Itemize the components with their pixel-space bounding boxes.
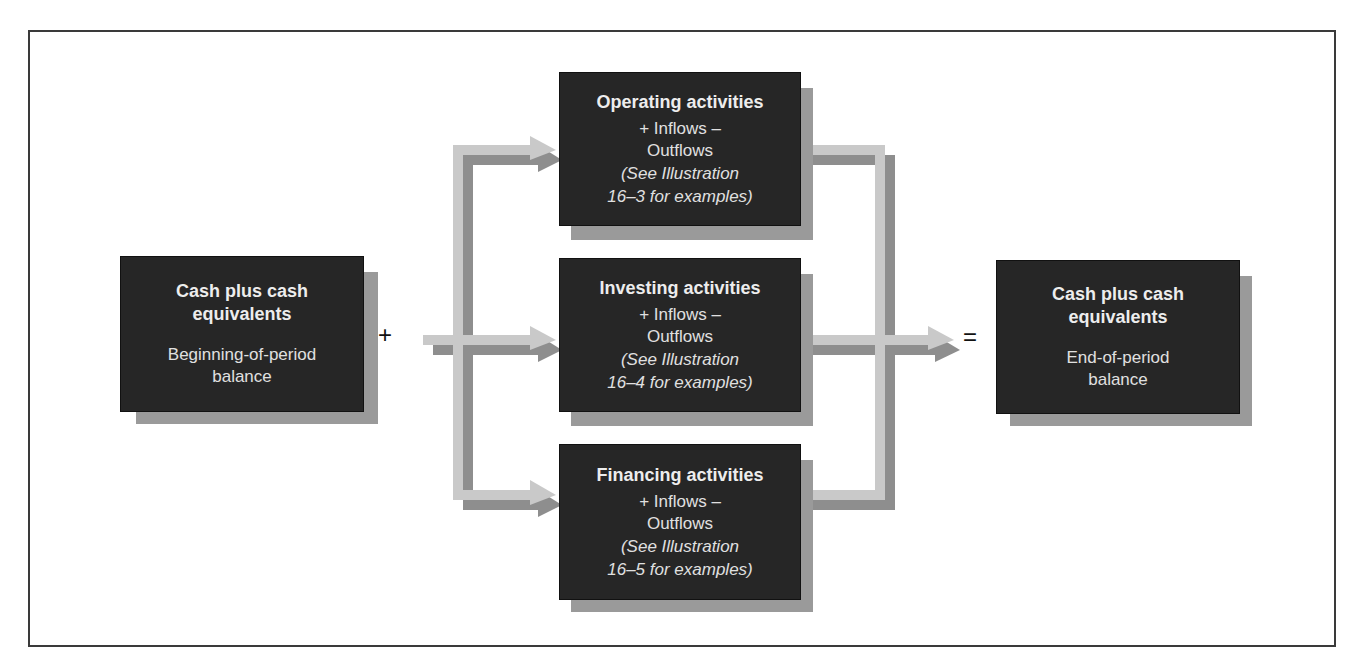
operating-flow-line1: + Inflows – (639, 118, 721, 140)
end-box: Cash plus cash equivalents End-of-period… (996, 260, 1240, 414)
financing-flow-line1: + Inflows – (639, 491, 721, 513)
operating-activities-box: Operating activities + Inflows – Outflow… (559, 72, 801, 226)
operating-title: Operating activities (596, 91, 763, 114)
investing-title: Investing activities (599, 277, 760, 300)
equals-sign: = (963, 323, 977, 351)
financing-flow-line2: Outflows (647, 513, 713, 535)
end-box-title: Cash plus cash equivalents (1033, 283, 1203, 329)
financing-title: Financing activities (596, 464, 763, 487)
investing-note-line2: 16–4 for examples) (607, 371, 753, 394)
operating-note-line1: (See Illustration (621, 162, 739, 185)
operating-note-line2: 16–3 for examples) (607, 185, 753, 208)
plus-sign: + (378, 321, 392, 349)
financing-note-line2: 16–5 for examples) (607, 558, 753, 581)
investing-activities-box: Investing activities + Inflows – Outflow… (559, 258, 801, 412)
investing-flow-line1: + Inflows – (639, 304, 721, 326)
investing-note-line1: (See Illustration (621, 348, 739, 371)
financing-note-line1: (See Illustration (621, 535, 739, 558)
start-box-title: Cash plus cash equivalents (157, 280, 327, 326)
end-box-subtitle: End-of-period balance (1048, 347, 1188, 391)
operating-flow-line2: Outflows (647, 140, 713, 162)
financing-activities-box: Financing activities + Inflows – Outflow… (559, 444, 801, 600)
start-box: Cash plus cash equivalents Beginning-of-… (120, 256, 364, 412)
start-box-subtitle: Beginning-of-period balance (142, 344, 342, 388)
investing-flow-line2: Outflows (647, 326, 713, 348)
